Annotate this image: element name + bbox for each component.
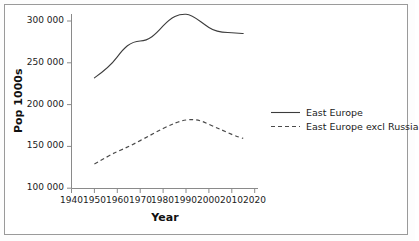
series-line-east-europe xyxy=(94,14,243,78)
legend-swatches xyxy=(271,113,300,127)
y-axis-ticks xyxy=(67,21,72,188)
legend-label-east-europe: East Europe xyxy=(306,107,363,118)
y-axis-title: Pop 1000s xyxy=(12,69,25,134)
series-line-east-europe-excl-russia xyxy=(94,120,243,164)
legend-label-east-europe-excl-russia: East Europe excl Russia xyxy=(306,121,419,132)
x-tick-label: 2020 xyxy=(240,195,269,205)
x-axis-title: Year xyxy=(133,211,197,224)
y-tick-label: 250 000 xyxy=(18,57,64,67)
x-axis-ticks xyxy=(72,189,255,194)
y-tick-label: 300 000 xyxy=(18,15,64,25)
y-tick-label: 150 000 xyxy=(18,140,64,150)
axis-spines xyxy=(72,14,259,189)
y-tick-label: 100 000 xyxy=(18,182,64,192)
